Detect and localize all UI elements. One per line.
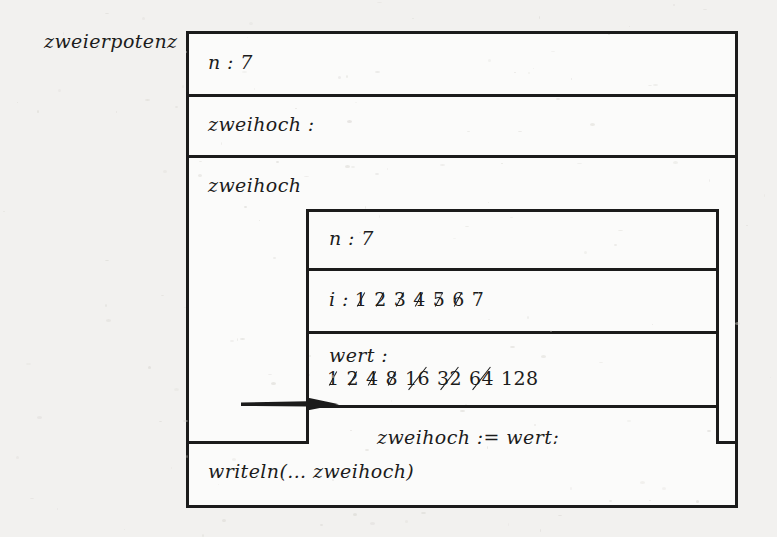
inner-row-n-label: n : 7 [329,227,374,249]
outer-row-writeln-label: writeln(... zweihoch) [208,460,414,482]
paper-speckle [105,260,109,261]
paper-speckle [353,513,357,516]
paper-speckle [116,111,117,113]
paper-speckle [37,110,39,113]
paper-speckle [370,522,375,525]
paper-speckle [148,366,151,369]
value-token: 7 [472,288,485,310]
inner-row-n: n : 7 [309,212,716,271]
paper-speckle [508,523,509,526]
paper-speckle [629,26,630,27]
value-token: 128 [501,367,538,389]
inner-row-i: i :1234567 [309,271,716,334]
paper-speckle [145,99,150,101]
paper-speckle [16,456,19,459]
value-token: 3 [394,288,407,310]
paper-speckle [171,467,172,469]
paper-speckle [770,377,771,378]
inner-row-wert: wert : 1248163264128 [309,334,716,408]
paper-speckle [106,319,111,322]
value-token: 4 [413,288,426,310]
diagram-name: zweierpotenz [44,30,177,52]
paper-speckle [26,363,31,365]
paper-speckle [540,529,541,532]
paper-speckle [421,512,426,514]
inner-row-wert-label: wert : [329,344,388,366]
value-token: 2 [374,288,387,310]
paper-speckle [182,85,184,88]
paper-speckle [175,106,178,108]
paper-speckle [764,194,765,197]
paper-speckle [105,13,109,14]
paper-speckle [163,170,167,173]
paper-speckle [37,416,42,419]
i-value-sequence: 1234567 [349,288,492,310]
value-token: 32 [437,367,462,389]
outer-row-zweihoch-label: zweihoch : [208,113,315,135]
value-token: 5 [433,288,446,310]
value-token: 6 [452,288,465,310]
paper-speckle [159,421,162,422]
paper-speckle [703,9,707,10]
paper-speckle [320,524,323,526]
value-token: 16 [405,367,430,389]
outer-row-zweihoch: zweihoch : [189,97,735,158]
paper-speckle [746,225,748,226]
paper-speckle [558,515,562,516]
structogram-inner-box: n : 7 i :1234567 wert : 1248163264128 zw… [306,209,719,474]
paper-speckle [405,520,408,523]
paper-speckle [124,529,125,530]
paper-speckle [249,22,253,25]
value-token: 1 [327,367,340,389]
paper-speckle [57,508,58,510]
paper-speckle [105,304,107,307]
value-token: 1 [355,288,368,310]
outer-row-n: n : 7 [189,34,735,97]
value-token: 8 [386,367,399,389]
paper-speckle [17,102,18,103]
paper-speckle [377,2,382,3]
paper-speckle [539,16,540,19]
paper-speckle [174,388,179,391]
value-token: 4 [366,367,379,389]
wert-value-sequence: 1248163264128 [327,367,545,389]
value-token: 64 [469,367,494,389]
paper-speckle [142,17,145,20]
paper-speckle [30,498,34,499]
paper-speckle [412,18,414,19]
value-token: 2 [347,367,360,389]
outer-row-writeln: writeln(... zweihoch) [189,444,735,505]
paper-speckle [673,4,675,6]
inner-row-i-label: i :1234567 [329,288,491,310]
outer-row-body-label: zweihoch [208,174,301,196]
paper-speckle [222,519,226,522]
structogram-outer-box: n : 7 zweihoch : zweihoch n : 7 i :12345… [186,31,738,508]
outer-row-n-label: n : 7 [208,51,253,73]
paper-speckle [161,295,164,296]
page-canvas: zweierpotenz n : 7 zweihoch : zweihoch n… [0,0,777,537]
paper-speckle [58,89,61,92]
outer-row-body: zweihoch n : 7 i :1234567 wert : 1248163… [189,158,735,444]
paper-speckle [3,211,5,212]
inner-row-i-text: i : [329,288,349,310]
